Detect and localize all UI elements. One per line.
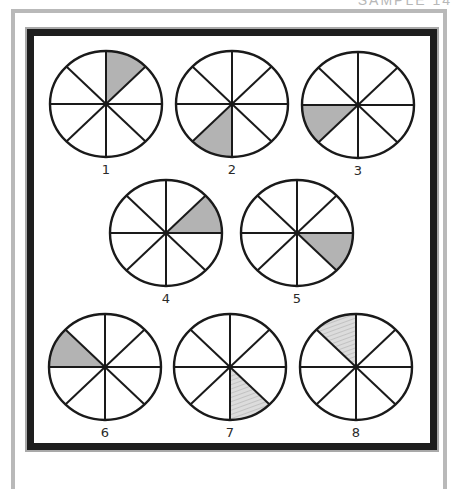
shaded-sector — [316, 314, 356, 367]
shaded-sector — [302, 105, 358, 142]
center-dot — [103, 365, 107, 369]
center-dot — [104, 102, 108, 106]
circle-label: 1 — [102, 162, 110, 177]
circle-label: 6 — [101, 425, 109, 440]
center-dot — [354, 365, 358, 369]
fraction-circle-2: 2 — [176, 51, 288, 177]
circle-label: 2 — [228, 162, 236, 177]
center-dot — [356, 103, 360, 107]
fraction-circle-7: 7 — [174, 314, 286, 440]
center-dot — [295, 231, 299, 235]
center-dot — [230, 102, 234, 106]
shaded-sector — [192, 104, 232, 157]
shaded-sector — [166, 196, 222, 233]
fraction-circle-5: 5 — [241, 180, 353, 306]
shaded-sector — [49, 330, 105, 367]
shaded-sector — [106, 51, 146, 104]
fraction-circle-4: 4 — [110, 180, 222, 306]
shaded-sector — [230, 367, 270, 420]
circle-label: 8 — [352, 425, 360, 440]
fraction-circle-3: 3 — [302, 52, 414, 178]
center-dot — [228, 365, 232, 369]
fraction-circle-6: 6 — [49, 314, 161, 440]
circle-label: 7 — [226, 425, 234, 440]
circle-label: 3 — [354, 163, 362, 178]
shaded-sector — [297, 233, 353, 270]
fraction-circle-1: 1 — [50, 51, 162, 177]
circle-label: 4 — [162, 291, 170, 306]
circle-label: 5 — [293, 291, 301, 306]
center-dot — [164, 231, 168, 235]
fraction-circle-8: 8 — [300, 314, 412, 440]
